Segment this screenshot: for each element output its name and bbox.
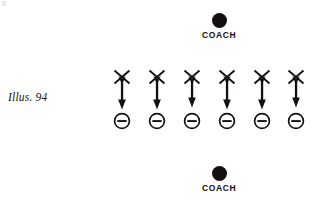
player-pair [179, 68, 205, 130]
movement-arrow-icon [292, 76, 300, 108]
pair-glyph-2 [144, 68, 170, 130]
player-pair-group [0, 0, 318, 209]
player-pair [249, 68, 275, 130]
defense-circle-minus-icon [220, 114, 235, 129]
player-pair [214, 68, 240, 130]
pair-glyph-1 [109, 68, 135, 130]
movement-arrow-icon [258, 76, 266, 110]
pair-glyph-6 [283, 68, 309, 130]
coach-label-bottom: COACH [202, 183, 236, 193]
player-pair [283, 68, 309, 130]
defense-circle-minus-icon [185, 114, 200, 129]
movement-arrow-icon [153, 76, 161, 110]
defense-circle-minus-icon [255, 114, 270, 129]
movement-arrow-icon [223, 76, 231, 110]
pair-glyph-4 [214, 68, 240, 130]
defense-circle-minus-icon [150, 114, 165, 129]
movement-arrow-icon [118, 76, 126, 110]
pair-glyph-5 [249, 68, 275, 130]
player-pair [144, 68, 170, 130]
defense-circle-minus-icon [289, 114, 304, 129]
pair-glyph-3 [179, 68, 205, 130]
defense-circle-minus-icon [115, 114, 130, 129]
illustration-page: COACH Illus. 94 [0, 0, 318, 209]
player-pair [109, 68, 135, 130]
filled-dot-icon [212, 166, 227, 181]
movement-arrow-icon [188, 76, 196, 108]
